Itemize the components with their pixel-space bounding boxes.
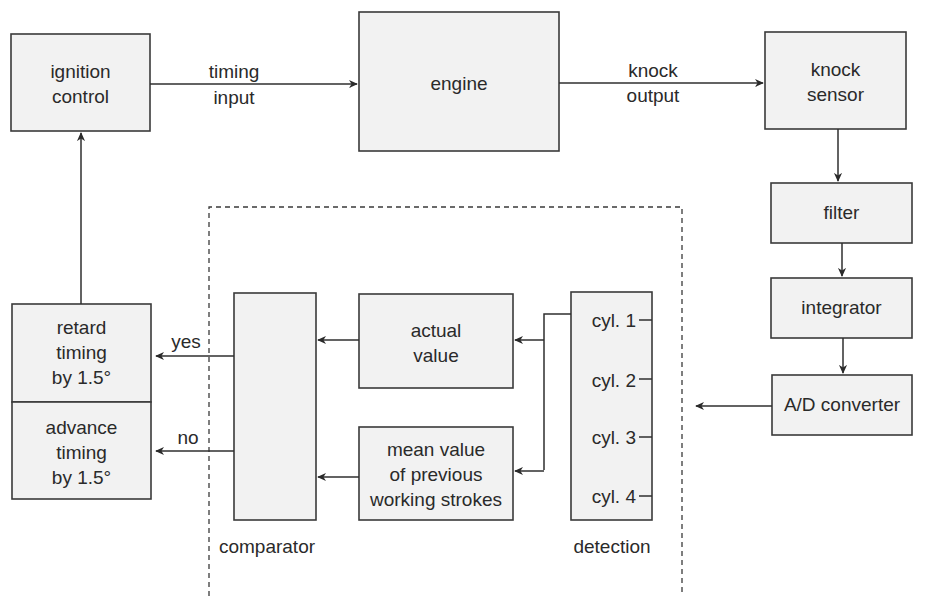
knock-output-label-line1: knock [628, 60, 678, 81]
actual-value-label-line1: actual [411, 320, 462, 341]
engine-label: engine [430, 73, 487, 94]
cylinder-3-label: cyl. 3 [592, 427, 636, 448]
actual-value-label-line2: value [413, 345, 458, 366]
yes-label: yes [171, 331, 201, 352]
retard-timing-label-line3: by 1.5° [52, 367, 111, 388]
retard-timing-block: retard timing by 1.5° [12, 304, 151, 402]
actual-value-block: actual value [359, 294, 513, 388]
filter-block: filter [771, 183, 912, 243]
knock-control-diagram: ignition control engine knock sensor fil… [0, 0, 925, 596]
comparator-caption: comparator [219, 536, 316, 557]
no-label: no [177, 427, 198, 448]
cylinder-2-label: cyl. 2 [592, 370, 636, 391]
advance-timing-block: advance timing by 1.5° [12, 402, 151, 499]
ignition-control-block: ignition control [11, 34, 150, 131]
filter-label: filter [824, 202, 861, 223]
mean-value-label-line1: mean value [387, 439, 485, 460]
ad-converter-block: A/D converter [772, 375, 912, 435]
ad-converter-label: A/D converter [784, 394, 901, 415]
mean-value-label-line3: working strokes [369, 489, 502, 510]
timing-input-label-line2: input [213, 87, 255, 108]
advance-timing-label-line2: timing [56, 442, 107, 463]
mean-value-block: mean value of previous working strokes [359, 427, 513, 520]
retard-timing-label-line1: retard [57, 317, 107, 338]
detection-split-line [544, 314, 571, 470]
timing-input-label-line1: timing [209, 61, 260, 82]
knock-sensor-label-line1: knock [811, 59, 861, 80]
knock-sensor-block: knock sensor [765, 32, 906, 129]
detection-caption: detection [573, 536, 650, 557]
retard-timing-label-line2: timing [56, 342, 107, 363]
ignition-control-label-line1: ignition [50, 61, 110, 82]
integrator-block: integrator [771, 278, 912, 338]
knock-output-label-line2: output [627, 85, 681, 106]
cylinder-1-label: cyl. 1 [592, 310, 636, 331]
cylinder-4-label: cyl. 4 [592, 486, 637, 507]
advance-timing-label-line3: by 1.5° [52, 467, 111, 488]
integrator-label: integrator [801, 297, 882, 318]
comparator-block: comparator [219, 293, 316, 557]
engine-block: engine [359, 12, 559, 151]
knock-sensor-label-line2: sensor [807, 84, 865, 105]
advance-timing-label-line1: advance [46, 417, 118, 438]
ignition-control-label-line2: control [52, 86, 109, 107]
detection-block: cyl. 1 cyl. 2 cyl. 3 cyl. 4 detection [571, 292, 652, 557]
mean-value-label-line2: of previous [390, 464, 483, 485]
